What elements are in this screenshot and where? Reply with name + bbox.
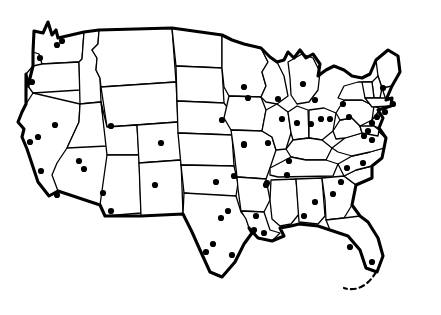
city-dot-grand-rapids — [300, 81, 306, 87]
city-dot-san-antonio — [203, 249, 209, 255]
city-dot-new-orleans — [261, 230, 267, 236]
state-missouri — [231, 130, 276, 179]
city-dot-chicago — [279, 116, 285, 122]
state-arizona — [100, 155, 141, 216]
city-dot-dallas — [225, 208, 231, 214]
state-oklahoma — [181, 165, 238, 196]
city-dot-baltimore — [365, 128, 371, 134]
city-dot-boston — [390, 101, 396, 107]
city-dot-atlanta — [330, 191, 336, 197]
city-dot-houston — [229, 252, 235, 258]
city-dot-san-francisco — [27, 139, 33, 145]
city-dot-tampa — [347, 244, 353, 250]
city-dot-wichita — [231, 173, 237, 179]
city-dot-memphis — [263, 182, 269, 188]
state-wyoming — [101, 82, 178, 127]
city-dot-oklahoma-city — [213, 179, 219, 185]
city-dot-st-louis — [241, 141, 247, 147]
city-dot-charlotte — [344, 165, 350, 171]
city-dot-detroit — [312, 97, 318, 103]
city-dot-albuquerque — [152, 182, 158, 188]
city-dot-raleigh — [360, 160, 366, 166]
city-dot-phoenix — [100, 190, 106, 196]
city-dot-milwaukee — [275, 96, 281, 102]
city-dot-miami — [369, 259, 375, 265]
city-dot-louisville — [286, 158, 292, 164]
city-dot-denver — [158, 140, 164, 146]
city-dot-portland-me — [380, 85, 386, 91]
city-dot-spokane-area — [81, 166, 87, 172]
city-dot-austin — [210, 241, 216, 247]
state-south-dakota — [176, 66, 224, 103]
city-dot-fort-worth — [218, 215, 224, 221]
city-dot-philadelphia — [369, 120, 375, 126]
city-dot-springfield-il — [265, 140, 271, 146]
city-dot-cincinnati — [308, 121, 314, 127]
city-dot-billings — [241, 84, 247, 90]
city-dot-pittsburgh — [346, 114, 352, 120]
city-dot-seattle — [59, 38, 65, 44]
city-dot-columbia-sc — [338, 179, 344, 185]
city-dot-minneapolis — [245, 95, 251, 101]
state-alabama — [296, 178, 325, 224]
city-dot-birmingham — [312, 199, 318, 205]
city-dot-portland — [37, 55, 43, 61]
city-dot-buffalo — [340, 101, 346, 107]
us-map-canvas — [0, 0, 441, 315]
city-dot-san-diego — [54, 192, 60, 198]
city-dot-columbus — [318, 116, 324, 122]
us-map-figure — [0, 0, 441, 315]
city-dot-baton-rouge — [253, 213, 259, 219]
city-dot-indianapolis — [294, 120, 300, 126]
state-mississippi — [270, 179, 299, 226]
city-dot-jackson — [301, 213, 307, 219]
city-dot-los-angeles — [38, 168, 44, 174]
city-dot-corpus-christi — [251, 227, 257, 233]
state-montana — [92, 28, 176, 87]
city-dot-washington-dc — [361, 133, 367, 139]
city-dot-richmond — [369, 137, 375, 143]
city-dot-las-vegas — [76, 158, 82, 164]
city-dot-new-york — [374, 114, 380, 120]
city-dot-hartford — [382, 109, 388, 115]
city-dot-nashville — [284, 172, 290, 178]
city-dot-eugene — [29, 79, 35, 85]
city-dot-omaha — [219, 117, 225, 123]
state-iowa — [224, 96, 266, 131]
state-new-mexico — [139, 160, 183, 216]
city-dot-tacoma — [54, 42, 60, 48]
city-dot-reno — [52, 122, 58, 128]
city-dot-salt-lake-city — [108, 123, 114, 129]
city-dot-tucson — [108, 208, 114, 214]
state-kansas — [178, 133, 234, 166]
city-dot-cleveland — [327, 116, 333, 122]
city-dot-sacramento — [35, 134, 41, 140]
